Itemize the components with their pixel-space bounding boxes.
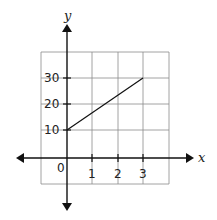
x-tick-3: 3 [139,167,147,181]
coordinate-plane: y x 0 1 2 3 10 20 30 [0,0,217,220]
x-tick-2: 2 [114,167,122,181]
x-axis-left-arrow-icon [16,153,24,163]
y-axis-up-arrow-icon [62,24,72,32]
y-tick-30: 30 [44,71,59,85]
origin-label: 0 [57,161,65,175]
y-tick-10: 10 [44,123,59,137]
y-axis-label: y [63,8,72,23]
y-axis-down-arrow-icon [62,203,72,211]
x-axis-label: x [198,150,206,165]
y-tick-20: 20 [44,97,59,111]
x-axis-right-arrow-icon [186,153,194,163]
x-tick-1: 1 [88,167,96,181]
